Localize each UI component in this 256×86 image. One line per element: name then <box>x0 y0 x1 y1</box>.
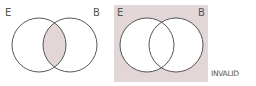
venn-diagrams: E B E B INVALID <box>0 0 256 86</box>
label-e: E <box>5 7 11 18</box>
label-b: B <box>93 7 100 18</box>
venn-left: E B <box>5 7 100 72</box>
venn-right: E B <box>114 5 208 82</box>
invalid-label: INVALID <box>211 69 239 78</box>
label-e: E <box>117 7 123 18</box>
label-b: B <box>198 7 205 18</box>
